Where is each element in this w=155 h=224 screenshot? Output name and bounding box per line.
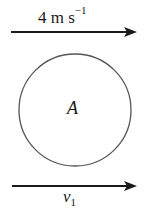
top-velocity-label: 4 m s−1 [38,6,87,28]
body-a-label: A [67,98,78,119]
top-velocity-arrow [11,27,137,37]
velocity-symbol: v [63,187,71,206]
velocity-subscript: 1 [71,196,77,208]
bottom-velocity-label: v1 [63,187,76,208]
velocity-value: 4 m s [38,8,75,27]
velocity-unit-exponent: −1 [75,4,87,16]
